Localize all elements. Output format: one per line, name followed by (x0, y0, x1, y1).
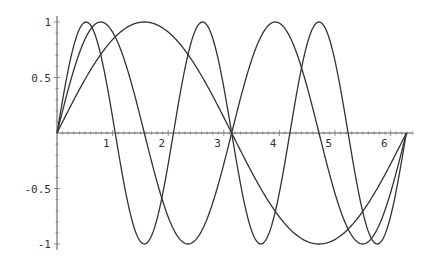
y-tick-label: 0.5 (31, 72, 51, 85)
y-tick-label: -1 (38, 238, 51, 251)
x-tick-label: 5 (325, 137, 332, 150)
x-tick-label: 4 (270, 137, 277, 150)
x-tick-label: 2 (159, 137, 166, 150)
axes (54, 16, 413, 250)
y-tick-label: 1 (44, 16, 51, 29)
y-tick-label: -0.5 (25, 183, 52, 196)
x-tick-label: 1 (103, 137, 110, 150)
x-tick-label: 6 (381, 137, 388, 150)
line-chart: 12345610.5-0.5-1 (0, 0, 432, 267)
x-tick-label: 3 (214, 137, 221, 150)
